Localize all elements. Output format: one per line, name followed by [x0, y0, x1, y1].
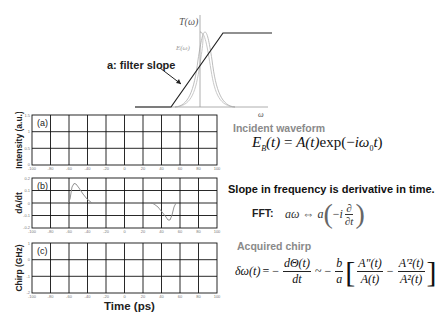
svg-text:0: 0	[123, 294, 126, 299]
svg-text:-40: -40	[85, 294, 92, 299]
svg-text:1.5: 1.5	[24, 113, 30, 118]
svg-text:-40: -40	[85, 166, 92, 171]
svg-text:-80: -80	[48, 294, 55, 299]
x-axis-label: Time (ps)	[104, 300, 155, 312]
svg-text:-20: -20	[103, 229, 110, 234]
svg-text:0.2: 0.2	[24, 176, 30, 181]
svg-text:0: 0	[28, 201, 31, 206]
svg-text:-100: -100	[28, 166, 37, 171]
slope-heading: Slope in frequency is derivative in time…	[228, 183, 435, 195]
svg-text:60: 60	[178, 229, 183, 234]
svg-text:0: 0	[28, 257, 31, 262]
filter-slope-annotation: a: filter slope	[107, 59, 175, 71]
svg-text:100: 100	[214, 229, 221, 234]
svg-text:0.1: 0.1	[24, 188, 30, 193]
svg-text:60: 60	[178, 294, 183, 299]
svg-text:-1: -1	[26, 274, 30, 279]
svg-text:-0.1: -0.1	[23, 213, 31, 218]
svg-text:100: 100	[214, 166, 221, 171]
e-omega-label: E(ω)	[176, 44, 190, 52]
svg-text:20: 20	[141, 229, 146, 234]
svg-text:80: 80	[196, 294, 201, 299]
svg-text:1: 1	[28, 129, 31, 134]
svg-text:80: 80	[196, 166, 201, 171]
panel-b: 0.2 0.1 0 -0.1 -0.2 -100-80-60-40-200204…	[0, 175, 225, 235]
svg-text:40: 40	[159, 166, 164, 171]
svg-text:-60: -60	[66, 166, 73, 171]
svg-text:-20: -20	[103, 294, 110, 299]
svg-text:0: 0	[123, 229, 126, 234]
svg-text:-20: -20	[103, 166, 110, 171]
svg-text:-80: -80	[48, 229, 55, 234]
svg-text:0: 0	[123, 166, 126, 171]
panel-b-ylabel: dA/dt	[14, 192, 24, 214]
svg-text:40: 40	[159, 294, 164, 299]
panel-a-tag: (a)	[37, 118, 48, 128]
panel-b-tag: (b)	[37, 181, 48, 191]
svg-text:-100: -100	[28, 229, 37, 234]
svg-text:0.5: 0.5	[24, 146, 30, 151]
svg-text:-60: -60	[66, 294, 73, 299]
svg-text:80: 80	[196, 229, 201, 234]
svg-text:40: 40	[159, 229, 164, 234]
panel-a-ylabel: Intensity (a.u.)	[14, 112, 24, 169]
omega-axis-label: ω	[258, 110, 264, 119]
panel-a: 1.5 1 0.5 0 -100-80-60-40-20020406080100…	[0, 112, 225, 172]
svg-text:20: 20	[141, 166, 146, 171]
svg-text:-100: -100	[28, 294, 37, 299]
panel-c-ylabel: Chirp (GHz)	[14, 244, 24, 291]
svg-text:-40: -40	[85, 229, 92, 234]
svg-text:20: 20	[141, 294, 146, 299]
t-omega-label: T(ω)	[179, 16, 198, 27]
fft-equation: aω⇔a ( −i ∂∂t )	[285, 200, 365, 228]
svg-text:1: 1	[28, 241, 31, 246]
chirp-equation: δω(t)= − dΘ(t)dt ~ − ba [ A″(t)A(t) − A′…	[235, 256, 437, 287]
svg-text:100: 100	[214, 294, 221, 299]
svg-text:-80: -80	[48, 166, 55, 171]
panel-c: 1 0 -1 -2 -100-80-60-40-20020406080100 (…	[0, 240, 225, 300]
incident-heading: Incident waveform	[233, 122, 325, 134]
svg-text:-60: -60	[66, 229, 73, 234]
fft-label: FFT:	[252, 207, 274, 219]
panel-c-tag: (c)	[37, 246, 48, 256]
incident-equation: EB(t) = A(t)exp(−iω0t)	[252, 134, 383, 153]
chirp-heading: Acquired chirp	[237, 240, 311, 252]
svg-text:60: 60	[178, 166, 183, 171]
filter-diagram	[0, 0, 447, 120]
